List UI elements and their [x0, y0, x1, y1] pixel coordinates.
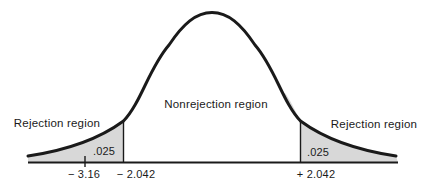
tail-area-label-right: .025: [307, 146, 329, 158]
distribution-figure: Rejection region Nonrejection region Rej…: [0, 0, 423, 193]
axis-tick-label-test-statistic: − 3.16: [68, 168, 100, 180]
rejection-region-label-right: Rejection region: [331, 118, 417, 130]
axis-tick-label-upper-critical: + 2.042: [297, 168, 335, 180]
nonrejection-region-label: Nonrejection region: [164, 98, 268, 110]
normal-curve-plot: [0, 0, 423, 193]
tail-area-label-left: .025: [93, 145, 115, 157]
rejection-region-label-left: Rejection region: [14, 117, 100, 129]
axis-tick-label-lower-critical: − 2.042: [117, 168, 155, 180]
bell-curve: [28, 13, 396, 157]
